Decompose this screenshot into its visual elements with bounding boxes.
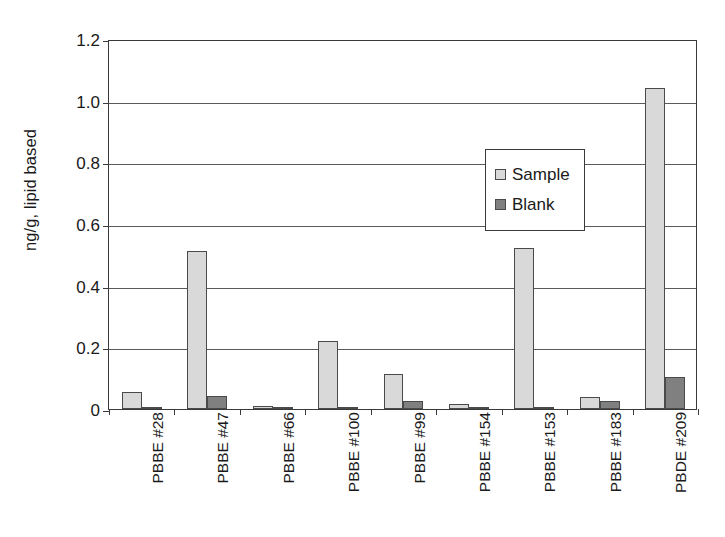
x-axis-tick-label: PBBE #99 [411,412,428,532]
bar-sample [253,406,273,409]
x-axis-tick-label: PBBE #66 [280,412,297,532]
bar-sample [580,397,600,409]
y-axis-tick-label: 0.2 [76,340,100,357]
bar-group [174,41,239,409]
bar-blank [534,407,554,409]
bar-blank [469,407,489,409]
bar-group [240,41,305,409]
bar-sample [514,248,534,409]
x-axis-tick-label: PBBE #183 [607,412,624,532]
y-axis-tick-labels: 00.20.40.60.81.01.2 [48,40,100,410]
y-axis-tick-label: 0.8 [76,155,100,172]
y-axis-title: ng/g, lipid based [16,0,44,380]
legend-entry: Sample [495,159,584,189]
bar-blank [142,407,162,409]
bar-blank [338,407,358,409]
plot-area: SampleBlank [108,40,697,410]
bar-sample [122,392,142,409]
y-axis-tick-label: 0.6 [76,217,100,234]
x-axis-tick-label: PBDE #209 [672,412,689,532]
x-axis-tick-label: PBBE #100 [345,412,362,532]
bar-sample [384,374,404,409]
bar-group [305,41,370,409]
x-axis-tick-mark [698,409,699,415]
bar-blank [665,377,685,409]
bar-group [371,41,436,409]
bar-sample [645,88,665,409]
bar-group [109,41,174,409]
legend-label: Blank [512,196,555,213]
legend-entry: Blank [495,189,584,219]
bar-blank [600,401,620,409]
x-axis-tick-label: PBBE #154 [476,412,493,532]
legend-label: Sample [512,166,570,183]
y-axis-tick-label: 1.0 [76,93,100,110]
bar-sample [318,341,338,409]
bar-group [633,41,698,409]
x-axis-tick-labels: PBBE #28PBBE #47PBBE #66PBBE #100PBBE #9… [108,410,697,537]
bar-sample [187,251,207,409]
y-axis-tick-label: 0.4 [76,278,100,295]
bar-blank [273,407,293,409]
chart-legend: SampleBlank [485,149,585,231]
bar-chart-figure: ng/g, lipid based 00.20.40.60.81.01.2 Sa… [0,0,725,537]
bar-sample [449,404,469,409]
x-axis-tick-label: PBBE #153 [541,412,558,532]
x-axis-tick-label: PBBE #47 [214,412,231,532]
legend-swatch-sample-icon [495,169,506,180]
y-axis-tick-label: 0 [91,402,100,419]
legend-swatch-blank-icon [495,199,506,210]
y-axis-tick-label: 1.2 [76,32,100,49]
bar-blank [403,401,423,409]
x-axis-tick-label: PBBE #28 [149,412,166,532]
bar-blank [207,396,227,409]
